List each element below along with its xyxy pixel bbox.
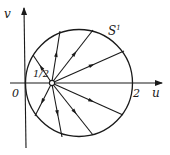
ray-arrow-icon	[88, 98, 94, 102]
ray-arrow-icon	[88, 64, 94, 68]
ray-arrow-icon	[41, 98, 45, 104]
ray-4	[52, 51, 124, 83]
u-axis-label: u	[152, 86, 160, 100]
ray-7	[52, 83, 93, 135]
intercept-label-2: 2	[132, 87, 140, 100]
focus-point	[49, 80, 54, 85]
ray-6	[52, 83, 62, 137]
origin-label: 0	[12, 87, 19, 100]
circle-label-sup: 1	[116, 24, 120, 32]
ray-8	[52, 83, 123, 115]
v-axis-label: v	[4, 7, 11, 21]
ray-3	[52, 30, 93, 83]
circle-ray-diagram: v u 0 1/2 2 S1	[0, 0, 170, 155]
ray-2	[52, 31, 60, 83]
focus-label: 1/2	[33, 68, 49, 79]
circle-label: S1	[108, 24, 121, 38]
circle-label-s: S	[108, 24, 116, 38]
